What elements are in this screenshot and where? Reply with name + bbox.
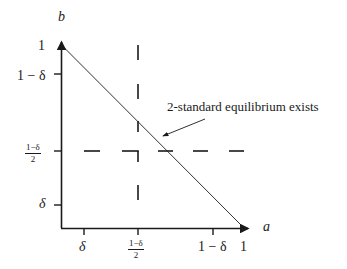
y-axis-label: b <box>58 10 65 24</box>
annotation-text: 2-standard equilibrium exists <box>167 99 319 115</box>
y-tick-label-1-minus-delta: 1 − δ <box>17 69 46 83</box>
y-tick-label-half: 1−δ 2 <box>25 143 41 164</box>
y-tick-label-1: 1 <box>38 39 45 53</box>
y-tick-label-half-den: 2 <box>25 154 41 164</box>
diagram-canvas <box>0 0 347 269</box>
annotation-arrow <box>163 119 205 136</box>
y-tick-label-delta: δ <box>39 197 46 211</box>
x-tick-label-half: 1−δ 2 <box>128 239 144 260</box>
x-tick-label-half-num: 1−δ <box>128 239 144 250</box>
x-tick-label-1-minus-delta: 1 − δ <box>198 240 227 254</box>
x-tick-label-1: 1 <box>240 240 247 254</box>
x-tick-label-half-den: 2 <box>128 250 144 260</box>
x-axis-label: a <box>263 220 270 234</box>
x-tick-label-delta: δ <box>79 240 86 254</box>
y-tick-label-half-num: 1−δ <box>25 143 41 154</box>
diagonal-line <box>62 45 245 228</box>
